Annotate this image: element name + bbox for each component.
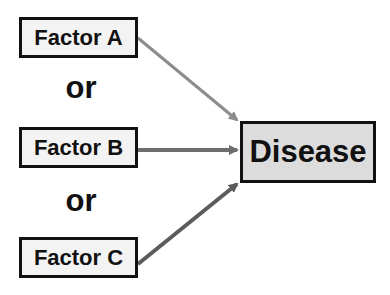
arrow-factor-a-to-disease [138, 38, 237, 120]
arrow-factor-c-to-disease [138, 184, 237, 264]
factor-c-box: Factor C [19, 237, 138, 278]
or-label-2: or [55, 183, 107, 219]
factor-a-label: Factor A [34, 25, 122, 51]
factor-b-label: Factor B [34, 135, 123, 161]
disease-box: Disease [240, 121, 376, 183]
factor-a-box: Factor A [19, 17, 138, 58]
disease-label: Disease [249, 134, 366, 170]
factor-c-label: Factor C [34, 245, 123, 271]
factor-b-box: Factor B [19, 127, 138, 168]
or-label-1: or [55, 70, 107, 106]
